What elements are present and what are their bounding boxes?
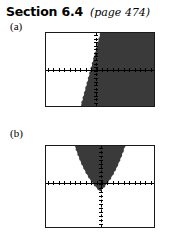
plot-a: 10 -10 -10 10: [45, 32, 155, 107]
page-reference: (page 474): [90, 6, 150, 19]
plot-a-y-ticks: [94, 33, 99, 106]
part-b-label: (b): [10, 127, 23, 139]
part-a: (a) 10 -10 -10 10: [0, 20, 179, 120]
section-title: Section 6.4: [6, 4, 83, 19]
plot-b-y-ticks: [99, 146, 104, 227]
plot-b: 10 -10 -10 10: [45, 145, 155, 228]
part-a-label: (a): [10, 20, 22, 32]
part-b: (b) 10 -10 -10 10: [0, 127, 179, 237]
plot-a-x-ticks: [46, 68, 154, 73]
page-header: Section 6.4(page 474): [6, 2, 176, 18]
